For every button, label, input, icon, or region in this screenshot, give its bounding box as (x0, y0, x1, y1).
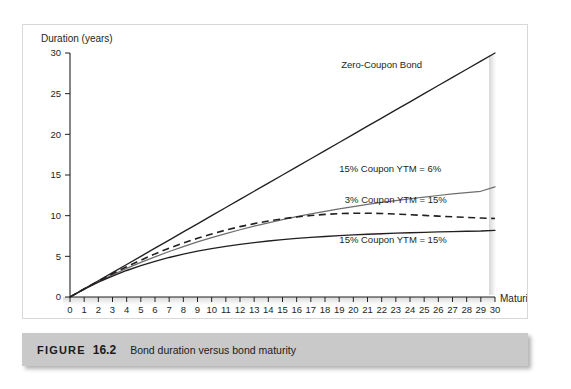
y-tick-label: 25 (50, 88, 61, 99)
x-tick-label: 18 (320, 304, 331, 315)
x-tick-label: 2 (96, 304, 101, 315)
x-tick-label: 22 (376, 304, 387, 315)
chart-series-group (70, 53, 495, 297)
figure-caption-bar: FIGURE 16.2 Bond duration versus bond ma… (22, 333, 528, 366)
x-tick-label: 10 (206, 304, 217, 315)
caption-figure-number: 16.2 (93, 343, 116, 357)
x-tick-label: 6 (152, 304, 157, 315)
x-tick-label: 4 (124, 304, 129, 315)
series-label-15-coupon-ytm-6: 15% Coupon YTM = 6% (339, 163, 442, 174)
x-tick-label: 14 (263, 304, 274, 315)
x-tick-label: 3 (110, 304, 115, 315)
x-tick-label: 23 (391, 304, 402, 315)
caption-figure-word: FIGURE (37, 344, 86, 356)
x-tick-label: 12 (235, 304, 246, 315)
x-tick-label: 30 (490, 304, 501, 315)
x-axis-title: Maturity (500, 293, 527, 304)
x-tick-label: 9 (195, 304, 200, 315)
x-tick-label: 21 (362, 304, 373, 315)
x-tick-label: 27 (447, 304, 458, 315)
duration-vs-maturity-plot: Duration (years) Maturity 051015202530 0… (23, 25, 527, 318)
x-tick-label: 25 (419, 304, 430, 315)
series-line-3-coupon-ytm-15 (70, 213, 495, 297)
x-tick-label: 5 (138, 304, 143, 315)
x-tick-label: 7 (167, 304, 172, 315)
y-tick-label: 10 (50, 210, 61, 221)
x-tick-label: 19 (334, 304, 345, 315)
x-tick-label: 17 (306, 304, 317, 315)
x-tick-label: 16 (291, 304, 302, 315)
y-tick-label: 15 (50, 169, 61, 180)
figure-page: Duration (years) Maturity 051015202530 0… (0, 0, 571, 389)
y-tick-label: 20 (50, 129, 61, 140)
y-tick-label: 30 (50, 47, 61, 58)
x-tick-label: 24 (405, 304, 416, 315)
y-tick-label: 0 (56, 291, 61, 302)
x-tick-label: 20 (348, 304, 359, 315)
caption-figure-text: Bond duration versus bond maturity (130, 344, 296, 356)
x-tick-label: 1 (82, 304, 87, 315)
series-label-3-coupon-ytm-15: 3% Coupon YTM = 15% (345, 194, 448, 205)
x-tick-label: 11 (221, 304, 231, 315)
x-tick-label: 13 (249, 304, 260, 315)
y-tick-label: 5 (56, 251, 61, 262)
x-axis-ticks: 0123456789101112131415161718192021222324… (67, 297, 500, 315)
series-line-zero-coupon-bond (70, 53, 495, 297)
y-axis-title: Duration (years) (41, 33, 113, 44)
figure-caption-inner: FIGURE 16.2 Bond duration versus bond ma… (37, 343, 296, 357)
y-axis-ticks: 051015202530 (50, 47, 70, 302)
x-tick-label: 29 (476, 304, 487, 315)
series-annotations-group: Zero-Coupon Bond15% Coupon YTM = 6%3% Co… (339, 59, 447, 245)
series-label-zero-coupon-bond: Zero-Coupon Bond (341, 59, 422, 70)
x-tick-label: 26 (433, 304, 444, 315)
x-tick-label: 28 (461, 304, 472, 315)
series-label-15-coupon-ytm-15: 15% Coupon YTM = 15% (339, 234, 447, 245)
x-tick-label: 8 (181, 304, 186, 315)
x-tick-label: 0 (67, 304, 72, 315)
chart-panel: Duration (years) Maturity 051015202530 0… (22, 24, 528, 319)
x-tick-label: 15 (277, 304, 288, 315)
